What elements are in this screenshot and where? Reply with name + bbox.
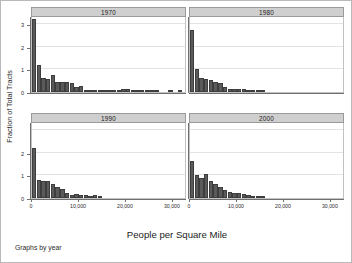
panel-title: 1980: [189, 7, 344, 17]
y-axis-tick-label: 1: [21, 173, 24, 179]
y-axis-tick-label: 2: [21, 151, 24, 157]
x-axis-tick: [31, 199, 32, 202]
y-axis-line: [188, 123, 189, 199]
panel-1990: 1990012010,00020,00030,000: [31, 113, 186, 213]
histogram-bar: [168, 90, 172, 92]
y-axis-line: [188, 17, 189, 93]
x-axis-tick-label: 20,000: [117, 203, 133, 209]
plot-area: [31, 123, 186, 199]
panel-1980: 1980: [189, 7, 344, 107]
x-axis-tick-label: 30,000: [164, 203, 180, 209]
histogram-bar: [260, 90, 264, 92]
y-axis-tick-label: 2: [21, 45, 24, 51]
y-axis-line: [30, 123, 31, 199]
x-axis-tick: [78, 199, 79, 202]
bar-series: [32, 123, 185, 198]
x-axis-tick-label: 10,000: [228, 203, 244, 209]
y-axis-tick: [27, 48, 31, 49]
x-axis-line: [31, 93, 186, 94]
x-axis-tick: [330, 199, 331, 202]
panel-1970: 19700123: [31, 7, 186, 107]
y-axis-tick-label: 0: [21, 90, 24, 96]
bar-series: [32, 17, 185, 92]
y-axis-tick: [27, 70, 31, 71]
x-axis-tick: [189, 199, 190, 202]
x-axis-line: [31, 199, 186, 200]
y-axis-tick: [27, 25, 31, 26]
figure-container: Fraction of Total Tracts 197001231980199…: [0, 0, 352, 263]
panel-title: 1970: [31, 7, 186, 17]
y-axis-title: Fraction of Total Tracts: [2, 1, 16, 211]
y-axis-tick-label: 3: [21, 22, 24, 28]
x-axis-line: [189, 199, 344, 200]
panel-title: 1990: [31, 113, 186, 123]
figure-note: Graphs by year: [15, 244, 61, 251]
histogram-bar: [98, 196, 102, 198]
x-axis-tick-label: 30,000: [322, 203, 338, 209]
y-axis-tick: [27, 154, 31, 155]
y-axis-line: [30, 17, 31, 93]
x-axis-tick-label: 10,000: [70, 203, 86, 209]
bar-series: [190, 17, 343, 92]
plot-area: [31, 17, 186, 93]
x-axis-tick: [236, 199, 237, 202]
y-axis-tick: [27, 176, 31, 177]
histogram-bar: [260, 196, 264, 198]
x-axis-tick-label: 0: [30, 203, 33, 209]
panel-grid: 1970012319801990012010,00020,00030,00020…: [17, 7, 349, 215]
x-axis-tick: [172, 199, 173, 202]
x-axis-tick: [125, 199, 126, 202]
x-axis-tick-label: 20,000: [275, 203, 291, 209]
x-axis-tick-label: 0: [188, 203, 191, 209]
x-axis-line: [189, 93, 344, 94]
histogram-bar: [178, 90, 182, 92]
y-axis-tick-label: 1: [21, 67, 24, 73]
x-axis-title: People per Square Mile: [1, 229, 352, 240]
panel-2000: 2000010,00020,00030,000: [189, 113, 344, 213]
plot-area: [189, 123, 344, 199]
x-axis-tick: [283, 199, 284, 202]
histogram-bar: [154, 90, 158, 92]
panel-title: 2000: [189, 113, 344, 123]
y-axis-tick-label: 0: [21, 196, 24, 202]
bar-series: [190, 123, 343, 198]
plot-area: [189, 17, 344, 93]
y-axis-title-text: Fraction of Total Tracts: [5, 70, 14, 143]
